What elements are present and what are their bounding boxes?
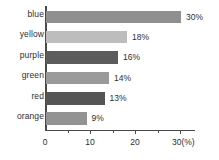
bar-row-orange: orange 9% [0,110,219,130]
bar-row-purple: purple 16% [0,49,219,69]
bar-wrap-green: 14% [46,72,131,85]
bar-orange [46,112,87,125]
x-tick-label-30: 30(%) [172,137,195,147]
bar-row-yellow: yellow 18% [0,28,219,48]
x-tick-20 [135,130,136,134]
bar-green [46,72,109,85]
bar-row-green: green 14% [0,69,219,89]
category-label-blue: blue [28,9,44,19]
x-tick-minor-25 [158,130,159,133]
bar-row-red: red 13% [0,90,219,110]
bar-row-blue: blue 30% [0,8,219,28]
x-tick-30 [180,130,181,134]
category-label-green: green [22,70,44,80]
bar-wrap-purple: 16% [46,51,140,64]
x-tick-minor-15 [113,130,114,133]
plot-area: blue 30% yellow 18% purple 16% [0,0,219,160]
category-label-red: red [31,91,44,101]
value-label-red: 13% [110,92,127,105]
bar-wrap-yellow: 18% [46,31,149,44]
bar-yellow [46,31,127,44]
x-tick-10 [90,130,91,134]
bar-chart: blue 30% yellow 18% purple 16% [0,0,219,160]
category-label-yellow: yellow [20,29,44,39]
category-label-orange: orange [17,111,44,121]
x-tick-label-20: 20 [130,137,139,147]
bar-blue [46,11,181,24]
bar-red [46,92,105,105]
value-label-yellow: 18% [132,31,149,44]
x-tick-label-0: 0 [43,137,48,147]
x-tick-label-10: 10 [85,137,94,147]
bar-purple [46,51,118,64]
bar-wrap-blue: 30% [46,11,203,24]
x-tick-minor-5 [68,130,69,133]
value-label-blue: 30% [186,11,203,24]
value-label-orange: 9% [92,112,104,125]
value-label-purple: 16% [123,51,140,64]
bar-rows: blue 30% yellow 18% purple 16% [0,8,219,130]
bar-wrap-orange: 9% [46,112,104,125]
bar-wrap-red: 13% [46,92,127,105]
value-label-green: 14% [114,72,131,85]
category-label-purple: purple [20,50,44,60]
